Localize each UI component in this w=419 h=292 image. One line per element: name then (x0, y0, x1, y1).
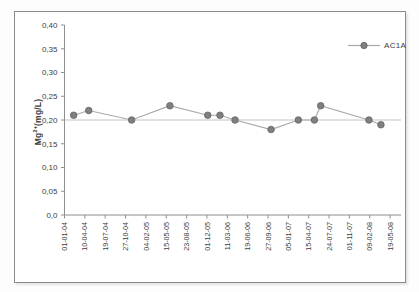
x-tick-label: 01-12-05 (203, 222, 212, 251)
data-point (85, 107, 92, 114)
data-point (378, 121, 385, 128)
x-tick-label: 15-04-07 (304, 222, 313, 251)
x-tick-label: 04-02-05 (142, 222, 151, 251)
y-tick-label: 0,20 (42, 116, 58, 125)
x-tick-label: 01-11-07 (345, 222, 354, 250)
chart-image: Mg2+(mg/L) AC1A 0,00,050,100,150,200,250… (0, 0, 419, 292)
x-tick-label: 01-01-04 (60, 222, 69, 251)
data-point (217, 112, 224, 119)
data-point (317, 102, 324, 109)
y-tick-label: 0,35 (42, 45, 58, 54)
y-tick-label: 0,25 (42, 92, 58, 101)
y-tick-label: 0,30 (42, 68, 58, 77)
x-tick-label: 11-03-06 (223, 222, 232, 250)
y-tick-label: 0,0 (46, 211, 58, 220)
data-point (311, 117, 318, 124)
data-point (128, 117, 135, 124)
data-point (295, 117, 302, 124)
data-point (268, 126, 275, 133)
data-point (204, 112, 211, 119)
x-tick-label: 27-09-06 (264, 222, 273, 251)
x-tick-label: 19-06-06 (243, 222, 252, 251)
y-tick-label: 0,15 (42, 140, 58, 149)
y-tick-label: 0,10 (42, 163, 58, 172)
x-tick-label: 09-02-08 (365, 222, 374, 251)
y-tick-label: 0,40 (42, 21, 58, 30)
x-tick-label: 10-04-04 (80, 222, 89, 251)
data-point (167, 102, 174, 109)
x-tick-label: 05-01-07 (284, 222, 293, 251)
data-point (232, 117, 239, 124)
x-tick-label: 19-05-08 (386, 222, 395, 251)
x-tick-label: 27-10-04 (121, 222, 130, 251)
data-point (70, 112, 77, 119)
data-point (366, 117, 373, 124)
x-tick-label: 19-07-04 (101, 222, 110, 251)
y-tick-label: 0,05 (42, 187, 58, 196)
plot-area: 0,00,050,100,150,200,250,300,350,4001-01… (0, 0, 419, 292)
x-tick-label: 23-08-05 (182, 222, 191, 251)
x-tick-label: 15-05-05 (162, 222, 171, 251)
series-line (74, 106, 381, 130)
x-tick-label: 24-07-07 (325, 222, 334, 251)
